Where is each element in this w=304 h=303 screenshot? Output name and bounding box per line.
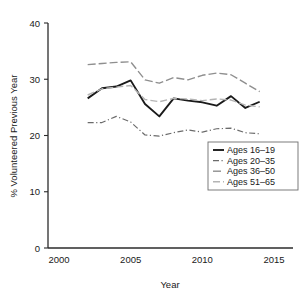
x-tick-label: 2015 <box>263 254 284 265</box>
y-tick-label: 40 <box>29 18 40 29</box>
x-tick-label: 2010 <box>192 254 213 265</box>
series-line-4 <box>88 85 260 106</box>
legend-label-3: Ages 36–50 <box>227 166 275 176</box>
series-group <box>88 62 260 136</box>
y-tick-label: 20 <box>29 130 40 141</box>
series-line-2 <box>88 116 260 136</box>
legend-label-2: Ages 20–35 <box>227 156 275 166</box>
x-axis-title: Year <box>160 279 179 290</box>
x-tick-label: 2005 <box>120 254 141 265</box>
y-axis: 010203040 <box>29 18 48 254</box>
y-tick-label: 30 <box>29 74 40 85</box>
y-axis-title: % Volunteered Previous Year <box>8 74 19 197</box>
x-tick-group: 2000200520102015 <box>48 254 284 265</box>
x-tick-label: 2000 <box>48 254 69 265</box>
chart-container: 010203040 2000200520102015 Year % Volunt… <box>0 0 304 303</box>
y-tick-label: 0 <box>35 243 40 254</box>
x-axis: 2000200520102015 <box>48 248 293 265</box>
legend[interactable]: Ages 16–19Ages 20–35Ages 36–50Ages 51–65 <box>208 142 298 190</box>
line-chart: 010203040 2000200520102015 Year % Volunt… <box>0 0 304 303</box>
legend-label-1: Ages 16–19 <box>227 145 275 155</box>
y-tick-label: 10 <box>29 186 40 197</box>
y-tick-group: 010203040 <box>29 18 48 254</box>
legend-label-4: Ages 51–65 <box>227 177 275 187</box>
